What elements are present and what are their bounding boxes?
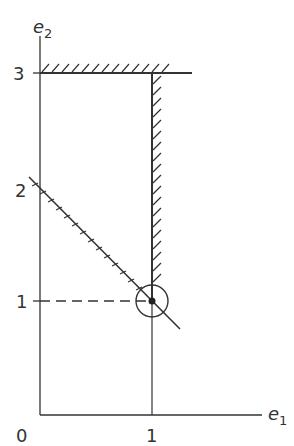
hatching-e1-1 <box>153 76 161 282</box>
tick-label-y-3: 3 <box>13 63 24 84</box>
tick-label-y-2: 2 <box>15 180 26 201</box>
optimal-point-dot <box>149 298 156 305</box>
tick-label-y-1: 1 <box>16 291 27 312</box>
tick-label-x-0: 0 <box>16 425 27 446</box>
feasible-region-diagram: e2 e1 3 2 1 0 1 <box>0 0 294 446</box>
x-axis-label: e1 <box>268 403 287 428</box>
y-axis-label: e2 <box>33 16 52 41</box>
hatching-e2-3 <box>42 64 169 72</box>
tick-label-x-1: 1 <box>146 425 157 446</box>
